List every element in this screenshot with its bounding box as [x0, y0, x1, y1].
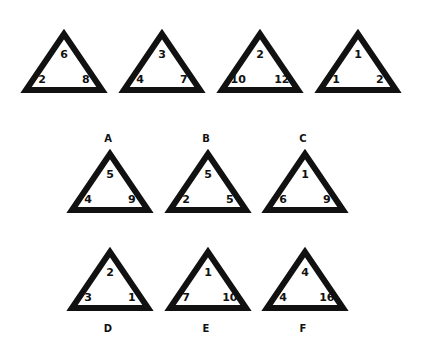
- left-number: 7: [182, 291, 190, 304]
- left-number: 4: [84, 193, 92, 206]
- triangle-outline: [68, 150, 152, 214]
- triangle-outline: [263, 150, 347, 214]
- top-number: 6: [60, 48, 68, 61]
- right-number: 1: [128, 291, 136, 304]
- left-number: 2: [38, 73, 46, 86]
- right-number: 10: [222, 291, 237, 304]
- right-number: 5: [226, 193, 234, 206]
- triangle-outline: [68, 248, 152, 312]
- option-label-e: E: [203, 323, 210, 334]
- right-number: 7: [180, 73, 188, 86]
- right-number: 16: [319, 291, 334, 304]
- option-label-c: C: [299, 133, 306, 144]
- top-number: 1: [301, 168, 309, 181]
- option-triangle-a: 549: [68, 150, 152, 214]
- left-number: 1: [332, 73, 340, 86]
- option-triangle-c: 169: [263, 150, 347, 214]
- top-number: 2: [256, 48, 264, 61]
- right-number: 9: [128, 193, 136, 206]
- left-number: 4: [279, 291, 287, 304]
- option-label-f: F: [300, 323, 307, 334]
- option-triangle-b: 525: [166, 150, 250, 214]
- triangle-outline: [22, 30, 106, 94]
- sequence-triangle-4: 112: [316, 30, 400, 94]
- option-label-a: A: [104, 133, 112, 144]
- triangle-outline: [166, 150, 250, 214]
- left-number: 10: [231, 73, 246, 86]
- sequence-triangle-2: 347: [120, 30, 204, 94]
- option-label-b: B: [202, 133, 210, 144]
- top-number: 2: [106, 266, 114, 279]
- option-triangle-d: 231: [68, 248, 152, 312]
- left-number: 4: [136, 73, 144, 86]
- top-number: 5: [106, 168, 114, 181]
- top-number: 4: [301, 266, 309, 279]
- triangle-outline: [316, 30, 400, 94]
- left-number: 6: [279, 193, 287, 206]
- sequence-triangle-3: 21012: [218, 30, 302, 94]
- top-number: 1: [204, 266, 212, 279]
- top-number: 5: [204, 168, 212, 181]
- right-number: 8: [82, 73, 90, 86]
- left-number: 3: [84, 291, 92, 304]
- left-number: 2: [182, 193, 190, 206]
- top-number: 1: [354, 48, 362, 61]
- option-label-d: D: [104, 323, 112, 334]
- option-triangle-f: 4416: [263, 248, 347, 312]
- top-number: 3: [158, 48, 166, 61]
- right-number: 12: [274, 73, 289, 86]
- option-triangle-e: 1710: [166, 248, 250, 312]
- right-number: 2: [376, 73, 384, 86]
- sequence-triangle-1: 628: [22, 30, 106, 94]
- triangle-outline: [120, 30, 204, 94]
- right-number: 9: [323, 193, 331, 206]
